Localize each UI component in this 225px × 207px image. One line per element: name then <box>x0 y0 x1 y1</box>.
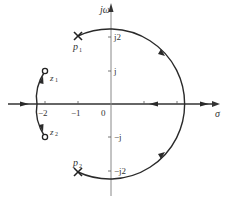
svg-text:2: 2 <box>55 131 58 137</box>
zero-label-z1: z 1 <box>49 73 58 83</box>
svg-text:p: p <box>72 157 78 168</box>
real-axis <box>8 101 220 107</box>
svg-text:1: 1 <box>79 47 82 53</box>
tick-label-j2: j2 <box>113 32 121 42</box>
svg-text:p: p <box>72 41 78 52</box>
zero-z2 <box>42 134 47 139</box>
tick-label-negj: −j <box>114 132 122 142</box>
tick-label-negj2: −j2 <box>114 166 126 176</box>
svg-text:2: 2 <box>79 163 82 169</box>
zero-z1 <box>42 68 47 73</box>
pole-p2 <box>74 168 82 176</box>
origin-label: 0 <box>101 108 106 118</box>
tick-label-neg1: −1 <box>71 108 81 118</box>
real-axis-label: σ <box>215 108 221 119</box>
imag-axis-label: jω <box>98 4 110 15</box>
real-axis-arrow-icon <box>212 101 220 107</box>
svg-text:z: z <box>49 73 54 83</box>
svg-text:z: z <box>49 127 54 137</box>
pole-label-p1: p 1 <box>72 41 82 53</box>
tick-label-neg2: −2 <box>38 108 48 118</box>
root-locus-diagram: jω σ 0 −2 −1 j2 j −j −j2 p 1 p 2 z 1 z 2 <box>0 0 225 207</box>
direction-arrow-icon <box>149 102 158 107</box>
zero-label-z2: z 2 <box>49 127 58 137</box>
pole-label-p2: p 2 <box>72 157 82 169</box>
imag-axis <box>108 3 114 196</box>
svg-text:1: 1 <box>55 77 58 83</box>
direction-arrow-icon <box>20 102 29 107</box>
tick-label-j: j <box>113 66 117 76</box>
pole-p1 <box>74 32 82 40</box>
direction-arrow-icon <box>200 102 209 107</box>
